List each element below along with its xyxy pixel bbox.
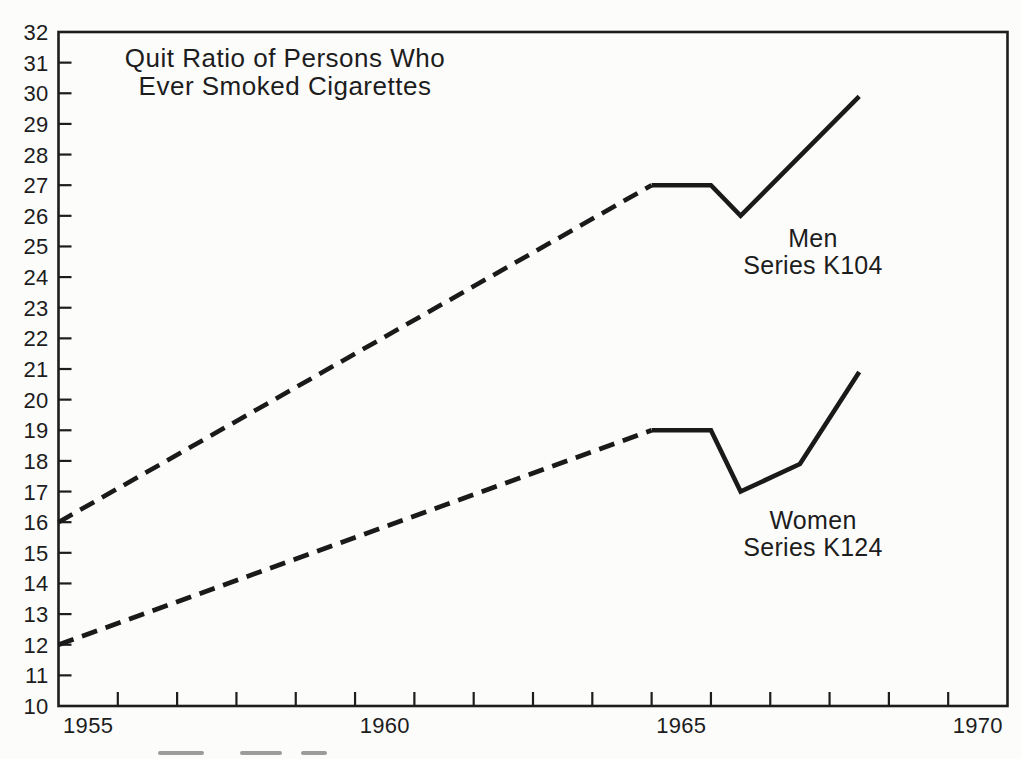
y-axis-tick-label: 20 [23, 388, 48, 413]
men-series-annotation: Men Series K104 [743, 225, 883, 279]
chart-title: Quit Ratio of Persons Who Ever Smoked Ci… [125, 44, 445, 100]
y-axis-tick-label: 23 [23, 296, 48, 321]
men-solid-line [652, 96, 860, 215]
y-axis-tick-label: 30 [23, 81, 48, 106]
men-series-name: Men [743, 225, 883, 252]
cropped-caption-fragment [158, 751, 204, 755]
x-axis-tick-label: 1970 [953, 713, 1003, 738]
y-axis-tick-label: 24 [23, 265, 48, 290]
y-axis-tick-label: 15 [23, 541, 48, 566]
y-axis-tick-label: 25 [23, 234, 48, 259]
men-series-code: Series K104 [743, 252, 883, 279]
women-series-annotation: Women Series K124 [743, 507, 883, 561]
women-series-code: Series K124 [743, 534, 883, 561]
y-axis-tick-label: 10 [23, 694, 48, 719]
chart-title-line-2: Ever Smoked Cigarettes [125, 72, 445, 100]
chart-title-line-1: Quit Ratio of Persons Who [125, 44, 445, 72]
y-axis-tick-label: 28 [23, 143, 48, 168]
y-axis-tick-label: 32 [23, 20, 48, 45]
chart-page: 3231302928272625242322212019181716151413… [0, 0, 1021, 759]
y-axis-tick-label: 11 [25, 663, 48, 688]
cropped-caption-fragment [301, 751, 327, 755]
y-axis-tick-label: 26 [23, 204, 48, 229]
women-solid-line [652, 372, 860, 491]
y-axis-tick-label: 27 [23, 173, 48, 198]
plot-border [59, 32, 1008, 706]
cropped-caption-fragment [240, 751, 282, 755]
y-axis-tick-label: 12 [23, 633, 48, 658]
y-axis-tick-label: 19 [23, 418, 48, 443]
y-axis-tick-label: 18 [23, 449, 48, 474]
women-dashed-line [59, 430, 652, 644]
y-axis-tick-label: 17 [23, 480, 48, 505]
x-axis-tick-label: 1960 [360, 713, 410, 738]
x-axis-tick-label: 1965 [656, 713, 706, 738]
line-chart-canvas: 3231302928272625242322212019181716151413… [0, 0, 1021, 759]
y-axis-tick-label: 16 [23, 510, 48, 535]
y-axis-tick-label: 29 [23, 112, 48, 137]
y-axis-tick-label: 31 [23, 51, 48, 76]
y-axis-tick-label: 13 [23, 602, 48, 627]
y-axis-tick-label: 22 [23, 326, 48, 351]
x-axis-tick-label: 1955 [63, 713, 113, 738]
y-axis-tick-label: 21 [23, 357, 48, 382]
men-dashed-line [59, 185, 652, 522]
women-series-name: Women [743, 507, 883, 534]
y-axis-tick-label: 14 [23, 571, 48, 596]
